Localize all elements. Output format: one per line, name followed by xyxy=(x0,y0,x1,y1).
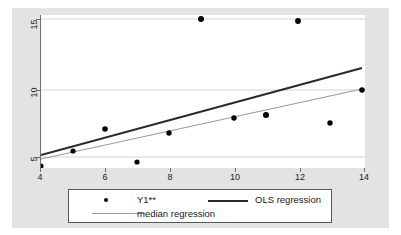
plot-canvas xyxy=(41,15,366,168)
chart-figure: 15 10 5 xyxy=(0,0,401,235)
data-point xyxy=(102,126,108,132)
data-point xyxy=(327,120,332,125)
x-tick-label-10: 10 xyxy=(225,173,245,182)
ols-regression-line xyxy=(41,68,362,155)
data-point xyxy=(295,18,301,24)
legend-marker-ols xyxy=(208,200,248,202)
data-point xyxy=(41,163,44,168)
data-point xyxy=(70,148,75,153)
data-point xyxy=(231,115,236,120)
data-point xyxy=(263,112,269,118)
data-point xyxy=(359,87,365,93)
x-tick-label-4: 4 xyxy=(30,173,50,182)
x-tick-label-8: 8 xyxy=(160,173,180,182)
median-regression-line xyxy=(41,89,362,159)
x-tick-label-6: 6 xyxy=(95,173,115,182)
x-tick-label-12: 12 xyxy=(290,173,310,182)
gridlines xyxy=(41,19,366,157)
legend-marker-scatter xyxy=(104,198,108,202)
data-point xyxy=(166,130,171,135)
data-point xyxy=(198,16,204,22)
chart-legend: Y1** OLS regression median regression xyxy=(68,189,332,223)
x-tick-label-14: 14 xyxy=(354,173,374,182)
data-point xyxy=(134,159,139,164)
data-point-group xyxy=(41,16,365,168)
legend-label-median: median regression xyxy=(137,209,215,219)
legend-label-ols: OLS regression xyxy=(255,195,321,205)
y-tick-label-15: 15 xyxy=(30,20,39,42)
legend-label-y1: Y1** xyxy=(137,195,156,205)
plot-area xyxy=(40,15,365,168)
